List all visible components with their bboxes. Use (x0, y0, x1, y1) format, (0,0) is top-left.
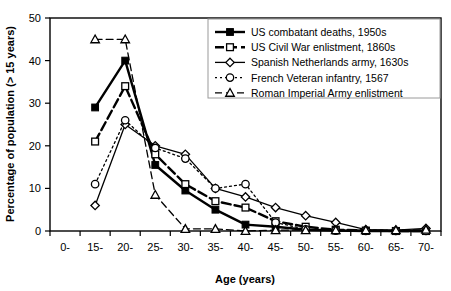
y-axis-title: Percentage of population (> 15 years) (4, 26, 16, 222)
legend-marker-sample (226, 74, 233, 81)
data-point-marker (152, 162, 159, 169)
data-point-marker (92, 104, 99, 111)
data-point-marker (152, 144, 159, 151)
chart-legend: US combatant deaths, 1950sUS Civil War e… (208, 19, 440, 99)
chart-container: 01020304050 0-15-20-25-30-35-40-45-50-55… (0, 0, 451, 291)
y-tick-label: 10 (29, 182, 41, 194)
x-tick-label: 35- (207, 241, 223, 253)
data-point-marker (242, 180, 249, 187)
data-point-marker (182, 181, 189, 188)
y-tick-label: 50 (29, 12, 41, 24)
x-tick-label: 40- (238, 241, 254, 253)
data-point-marker (121, 117, 128, 124)
legend-marker-sample (227, 29, 234, 36)
x-tick-label: 55- (328, 241, 344, 253)
legend-item-label: US combatant deaths, 1950s (251, 26, 386, 38)
x-tick-label: 60- (358, 241, 374, 253)
data-point-marker (212, 198, 219, 205)
x-tick-label: 30- (177, 241, 193, 253)
x-tick-label: 70- (418, 241, 434, 253)
x-tick-label: 25- (147, 241, 163, 253)
x-axis-title: Age (years) (215, 273, 275, 285)
x-tick-label: 65- (388, 241, 404, 253)
data-point-marker (122, 57, 129, 64)
y-tick-label: 0 (35, 225, 41, 237)
x-tick-label: 0- (60, 241, 70, 253)
data-point-marker (92, 138, 99, 145)
legend-item-label: French Veteran infantry, 1567 (251, 72, 389, 84)
y-tick-label: 20 (29, 140, 41, 152)
data-point-marker (212, 185, 219, 192)
data-point-marker (182, 155, 189, 162)
x-tick-label: 50- (298, 241, 314, 253)
x-tick-label: 20- (117, 241, 133, 253)
data-point-marker (122, 83, 129, 90)
data-point-marker (242, 204, 249, 211)
population-age-distribution-chart: 01020304050 0-15-20-25-30-35-40-45-50-55… (0, 0, 451, 291)
legend-marker-sample (227, 44, 234, 51)
y-tick-label: 30 (29, 97, 41, 109)
y-tick-label: 40 (29, 55, 41, 67)
legend-item-label: Spanish Netherlands army, 1630s (251, 56, 408, 68)
data-point-marker (91, 180, 98, 187)
legend-item-label: Roman Imperial Army enlistment (251, 87, 403, 99)
legend-item-label: US Civil War enlistment, 1860s (251, 41, 395, 53)
x-tick-label: 15- (87, 241, 103, 253)
x-tick-label: 45- (268, 241, 284, 253)
data-point-marker (212, 206, 219, 213)
